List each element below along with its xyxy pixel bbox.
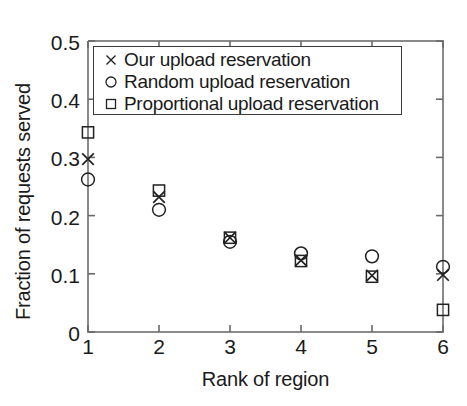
data-point (295, 247, 308, 260)
series-square-marker (82, 127, 448, 316)
legend-label: Proportional upload reservation (124, 93, 379, 115)
circle-marker-icon (100, 71, 122, 93)
legend-item-proportional: Proportional upload reservation (100, 93, 379, 115)
data-markers (82, 127, 450, 316)
legend-item-random: Random upload reservation (100, 71, 350, 93)
x-marker-icon (100, 49, 122, 71)
square-marker-icon (100, 93, 122, 115)
series-circle-marker (82, 173, 450, 273)
legend-label: Random upload reservation (124, 71, 350, 93)
data-point (153, 185, 164, 196)
legend-label: Our upload reservation (124, 49, 311, 71)
data-point (366, 250, 379, 263)
data-point (153, 203, 166, 216)
series-x-marker (82, 153, 449, 281)
data-point (153, 191, 165, 203)
chart-figure: Fraction of requests served Rank of regi… (0, 0, 467, 406)
legend: Our upload reservation Random upload res… (93, 46, 402, 115)
legend-item-our: Our upload reservation (100, 49, 311, 71)
